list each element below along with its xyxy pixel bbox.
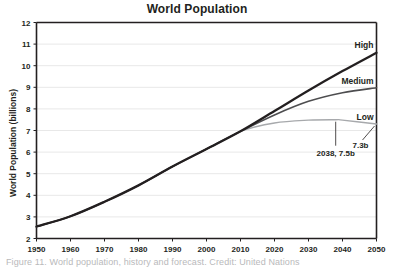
y-tick-label: 2 — [26, 235, 31, 244]
y-tick-label: 6 — [26, 148, 31, 157]
x-tick-label: 2000 — [198, 245, 216, 254]
series-line-high — [37, 53, 377, 227]
y-tick-label: 4 — [26, 191, 31, 200]
x-tick-label: 1980 — [130, 245, 148, 254]
series-lines — [37, 53, 377, 227]
series-label-low: Low — [357, 112, 374, 122]
annotation-low-peak: 2038, 7.5b — [317, 149, 355, 158]
x-axis-ticks: 1950196019701980199020002010202020302040… — [28, 239, 386, 254]
x-tick-label: 1950 — [28, 245, 46, 254]
figure-caption: Figure 11. World population, history and… — [6, 257, 392, 267]
x-tick-label: 1960 — [62, 245, 80, 254]
y-tick-label: 7 — [26, 127, 31, 136]
y-tick-label: 10 — [22, 62, 31, 71]
series-label-high: High — [355, 40, 374, 50]
x-tick-label: 1970 — [96, 245, 114, 254]
x-tick-label: 2040 — [334, 245, 352, 254]
series-labels: HighMediumLow — [341, 40, 374, 122]
figure-world-population: World Population World Population (billi… — [0, 0, 394, 270]
gridlines — [37, 44, 377, 217]
x-tick-label: 1990 — [164, 245, 182, 254]
x-tick-label: 2050 — [368, 245, 386, 254]
x-tick-label: 2030 — [300, 245, 318, 254]
chart-plot: 23456789101112 1950196019701980199020002… — [0, 0, 394, 270]
y-tick-label: 9 — [26, 83, 31, 92]
series-label-medium: Medium — [341, 76, 374, 86]
y-tick-label: 12 — [22, 19, 31, 28]
x-tick-label: 2010 — [232, 245, 250, 254]
y-tick-label: 3 — [26, 213, 31, 222]
y-tick-label: 11 — [22, 40, 31, 49]
annotation-low-endpoint: 7.3b — [352, 141, 368, 150]
x-tick-label: 2020 — [266, 245, 284, 254]
y-tick-label: 8 — [26, 105, 31, 114]
y-axis-ticks: 23456789101112 — [22, 19, 37, 244]
y-tick-label: 5 — [26, 170, 31, 179]
